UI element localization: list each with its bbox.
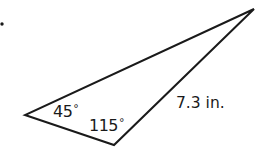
bullet-marker [0,22,3,25]
triangle-diagram [0,0,268,157]
angle-label-115: 115° [89,118,124,134]
triangle-shape [25,9,254,145]
side-length-label: 7.3 in. [176,96,225,112]
degree-symbol: ° [73,102,78,115]
angle-value: 45 [53,102,72,121]
angle-value: 115 [89,116,118,135]
angle-label-45: 45° [53,104,78,120]
degree-symbol: ° [119,116,124,129]
